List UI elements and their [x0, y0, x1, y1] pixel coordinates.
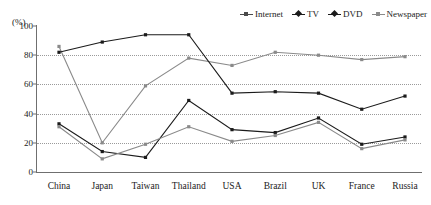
plot-area: 020406080100	[37, 26, 421, 172]
data-point	[230, 92, 233, 95]
data-point	[101, 157, 104, 160]
y-tick-label: 40	[24, 109, 33, 119]
legend-marker-tv-icon	[292, 11, 305, 18]
data-point	[101, 150, 104, 153]
data-point	[317, 121, 320, 124]
y-tick-label: 100	[20, 21, 34, 31]
data-point	[144, 33, 147, 36]
data-point	[360, 147, 363, 150]
x-tick-label: Russia	[392, 181, 417, 191]
data-point	[187, 125, 190, 128]
legend-marker-internet-icon	[240, 11, 253, 18]
x-tick-label: Japan	[91, 181, 113, 191]
y-tick-label: 80	[24, 50, 33, 60]
chart-legend: Internet TV DVD Newspaper	[240, 9, 427, 19]
data-point	[230, 64, 233, 67]
x-axis-line	[36, 172, 422, 173]
data-point	[317, 92, 320, 95]
data-point	[57, 125, 60, 128]
data-point	[403, 138, 406, 141]
legend-item-internet[interactable]: Internet	[240, 9, 283, 19]
data-point	[317, 116, 320, 119]
data-point	[317, 54, 320, 57]
legend-label-internet: Internet	[255, 9, 283, 19]
data-point	[274, 134, 277, 137]
x-tick-label: UK	[312, 181, 326, 191]
data-point	[57, 45, 60, 48]
legend-label-dvd: DVD	[343, 9, 363, 19]
data-point	[101, 141, 104, 144]
data-point	[187, 33, 190, 36]
legend-label-newspaper: Newspaper	[387, 9, 427, 19]
legend-marker-newspaper-icon	[372, 11, 385, 18]
x-tick-label: China	[48, 181, 71, 191]
data-point	[187, 99, 190, 102]
legend-item-tv[interactable]: TV	[292, 9, 319, 19]
x-tick-label: Thailand	[172, 181, 206, 191]
series-dvd	[57, 99, 406, 159]
legend-item-dvd[interactable]: DVD	[328, 9, 363, 19]
chart-container: (%) Internet TV DVD Newspaper 0204060801…	[0, 0, 431, 205]
data-point	[403, 135, 406, 138]
data-point	[144, 143, 147, 146]
legend-item-newspaper[interactable]: Newspaper	[372, 9, 427, 19]
data-point	[144, 156, 147, 159]
data-point	[274, 131, 277, 134]
data-point	[274, 51, 277, 54]
data-point	[403, 55, 406, 58]
data-point	[360, 108, 363, 111]
data-point	[230, 140, 233, 143]
series-line	[59, 35, 405, 109]
y-tick-label: 60	[24, 79, 33, 89]
data-point	[230, 128, 233, 131]
x-tick-label: France	[349, 181, 375, 191]
x-axis-labels: ChinaJapanTaiwanThailandUSABrazilUKFranc…	[37, 181, 421, 197]
legend-label-tv: TV	[307, 9, 319, 19]
x-tick-label: Brazil	[264, 181, 287, 191]
series-layer	[37, 26, 421, 172]
data-point	[403, 94, 406, 97]
series-tv	[57, 33, 406, 111]
x-tick-label: USA	[222, 181, 241, 191]
data-point	[187, 57, 190, 60]
y-tick-label: 20	[24, 138, 33, 148]
data-point	[360, 58, 363, 61]
data-point	[360, 143, 363, 146]
data-point	[101, 40, 104, 43]
series-newspaper	[57, 121, 406, 161]
legend-marker-dvd-icon	[328, 11, 341, 18]
data-point	[57, 51, 60, 54]
data-point	[144, 84, 147, 87]
data-point	[274, 90, 277, 93]
x-tick-label: Taiwan	[132, 181, 160, 191]
data-point	[57, 122, 60, 125]
